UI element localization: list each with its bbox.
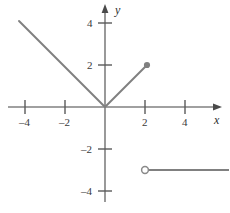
graph-figure: –4 –2 2 4 4 2 –2 –4 x y xyxy=(0,0,230,213)
x-axis-label: x xyxy=(214,114,219,126)
x-tick-label--4: –4 xyxy=(19,117,30,128)
curve-middle-branch xyxy=(105,66,146,107)
x-axis-arrowhead xyxy=(213,104,222,111)
x-tick-label-4: 4 xyxy=(182,117,188,128)
y-tick-label--4: –4 xyxy=(81,186,92,197)
x-tick-label-2: 2 xyxy=(142,117,148,128)
y-axis-arrowhead xyxy=(102,4,109,13)
x-tick-label--2: –2 xyxy=(59,117,70,128)
closed-endpoint-marker xyxy=(144,62,150,68)
open-endpoint-marker xyxy=(142,167,149,174)
y-axis-label: y xyxy=(115,4,120,16)
coordinate-plot xyxy=(0,0,230,213)
y-tick-label-4: 4 xyxy=(87,18,93,29)
y-tick-label--2: –2 xyxy=(81,144,92,155)
y-tick-label-2: 2 xyxy=(87,60,93,71)
